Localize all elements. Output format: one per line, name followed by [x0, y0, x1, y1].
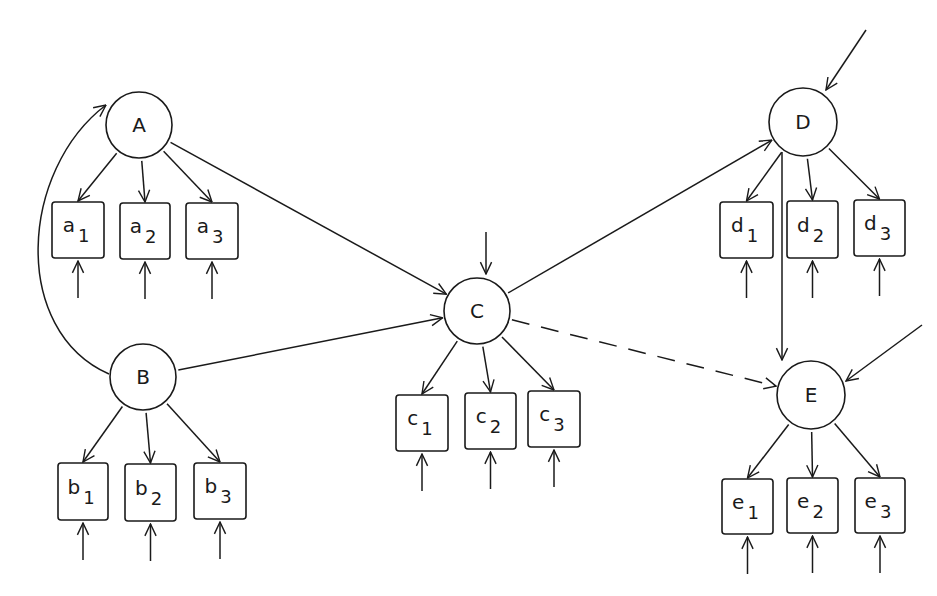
loading-e-e2-arrow	[812, 432, 813, 477]
loading-c-c3-arrow	[502, 337, 554, 390]
loading-c-c1-arrow	[422, 341, 457, 394]
loading-e-e1-arrow	[748, 425, 789, 478]
path-diagram-canvas: ABCDEa1a2a3b1b2b3c1c2c3d1d2d3e1e2e3	[0, 0, 937, 596]
indicator-node-d3: d3	[854, 200, 905, 256]
loading-a-a2-arrow	[142, 161, 145, 202]
indicator-node-e1: e1	[722, 479, 773, 534]
latent-node-a: A	[106, 92, 172, 158]
nodes-layer: ABCDEa1a2a3b1b2b3c1c2c3d1d2d3e1e2e3	[52, 88, 905, 534]
indicator-node-e2: e2	[787, 478, 838, 533]
indicator-node-b2: b2	[125, 464, 176, 521]
disturbance-e-arrow	[846, 325, 922, 381]
indicator-node-c2: c2	[465, 393, 516, 449]
loading-b-b2-arrow	[146, 413, 150, 463]
loading-e-e3-arrow	[835, 423, 880, 477]
latent-label: D	[795, 110, 810, 134]
path-c-to-e-arrow	[512, 320, 776, 386]
latent-label: A	[132, 113, 146, 137]
indicator-node-b3: b3	[194, 463, 246, 519]
indicator-node-a2: a2	[120, 203, 170, 259]
indicator-node-e3: e3	[855, 478, 905, 533]
disturbance-d-arrow	[826, 30, 866, 90]
path-b-to-c-arrow	[178, 318, 442, 370]
indicator-node-a1: a1	[52, 202, 104, 258]
indicator-node-c1: c1	[396, 395, 448, 451]
loading-d-d3-arrow	[829, 148, 880, 199]
latent-node-b: B	[110, 344, 176, 410]
latent-node-d: D	[769, 88, 837, 156]
indicator-node-c3: c3	[528, 391, 580, 447]
loading-b-b3-arrow	[167, 404, 220, 462]
latent-label: B	[136, 365, 150, 389]
loading-c-c2-arrow	[483, 347, 491, 392]
latent-label: C	[470, 299, 484, 323]
loading-b-b1-arrow	[83, 407, 122, 462]
latent-node-c: C	[444, 278, 510, 344]
loading-a-a1-arrow	[78, 153, 117, 201]
indicator-node-b1: b1	[58, 463, 108, 520]
indicator-node-a3: a3	[186, 203, 238, 259]
indicator-node-d2: d2	[787, 201, 838, 258]
latent-node-e: E	[777, 361, 845, 429]
loading-a-a3-arrow	[164, 151, 212, 202]
loading-d-d1-arrow	[747, 152, 782, 201]
latent-label: E	[805, 383, 818, 407]
indicator-node-d1: d1	[720, 202, 773, 258]
loading-d-d2-arrow	[807, 159, 812, 200]
